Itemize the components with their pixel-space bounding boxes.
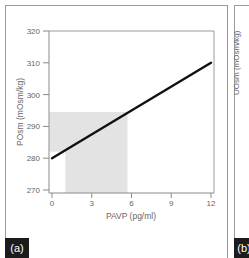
x-tick-label: 3 [90, 199, 95, 208]
panel-b-y-axis-title: UOsm (mOsm/kg) [232, 31, 241, 95]
x-tick-label: 9 [169, 199, 174, 208]
data-line [52, 63, 211, 158]
x-axis-title: PAVP (pg/ml) [106, 211, 156, 221]
chart-a: 270280290300310320 036912 PAVP (pg/ml) P… [0, 0, 249, 258]
y-tick-label: 310 [27, 59, 41, 68]
y-ticks: 270280290300310320 [27, 27, 49, 195]
panel-label-b: (b) [234, 238, 249, 258]
y-axis-title: POsm (mOsm/kg) [15, 78, 25, 146]
y-tick-label: 320 [27, 27, 41, 36]
y-tick-label: 280 [27, 154, 41, 163]
y-tick-label: 290 [27, 122, 41, 131]
x-tick-label: 0 [50, 199, 55, 208]
panel-label-a: (a) [5, 238, 29, 258]
y-tick-label: 300 [27, 91, 41, 100]
x-tick-label: 12 [207, 199, 216, 208]
x-tick-label: 6 [129, 199, 134, 208]
x-ticks: 036912 [50, 193, 216, 208]
y-tick-label: 270 [27, 186, 41, 195]
